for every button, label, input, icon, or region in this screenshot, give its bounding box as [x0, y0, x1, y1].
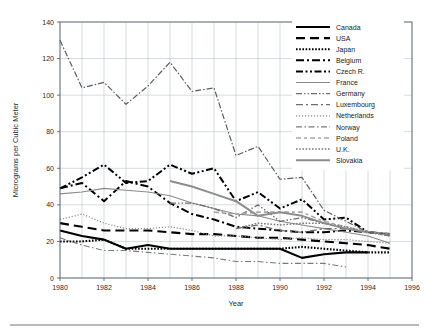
x-tick-1986: 1986	[184, 284, 200, 291]
y-tick-0: 0	[50, 275, 54, 282]
legend-label-u-k-: U.K.	[336, 146, 350, 153]
legend-label-france: France	[336, 79, 358, 86]
legend-label-japan: Japan	[336, 46, 355, 54]
x-tick-1980: 1980	[52, 284, 68, 291]
line-chart-figure: 198019821984198619881990199219941996 020…	[0, 0, 429, 334]
legend-label-usa: USA	[336, 35, 351, 42]
y-tick-60: 60	[46, 165, 54, 172]
legend-label-belgium: Belgium	[336, 57, 361, 65]
legend-label-canada: Canada	[336, 24, 361, 31]
y-tick-80: 80	[46, 128, 54, 135]
x-tick-1992: 1992	[316, 284, 332, 291]
x-tick-1984: 1984	[140, 284, 156, 291]
x-axis-title: Year	[228, 299, 244, 308]
x-tick-1996: 1996	[404, 284, 420, 291]
x-tick-1990: 1990	[272, 284, 288, 291]
legend-label-slovakia: Slovakia	[336, 157, 363, 164]
y-tick-40: 40	[46, 201, 54, 208]
x-tick-1988: 1988	[228, 284, 244, 291]
y-axis-title: Micrograms per Cubic Meter	[11, 102, 20, 197]
legend-label-netherlands: Netherlands	[336, 112, 374, 119]
x-tick-1982: 1982	[96, 284, 112, 291]
legend-label-luxembourg: Luxembourg	[336, 101, 375, 109]
y-tick-120: 120	[42, 55, 54, 62]
y-tick-140: 140	[42, 19, 54, 26]
legend-label-germany: Germany	[336, 90, 365, 98]
x-tick-1994: 1994	[360, 284, 376, 291]
y-tick-100: 100	[42, 92, 54, 99]
chart-legend: CanadaUSAJapanBelgiumCzech R.FranceGerma…	[292, 20, 404, 170]
legend-label-czech-r-: Czech R.	[336, 68, 365, 75]
legend-label-norway: Norway	[336, 124, 360, 132]
legend-label-poland: Poland	[336, 135, 358, 142]
y-tick-20: 20	[46, 238, 54, 245]
